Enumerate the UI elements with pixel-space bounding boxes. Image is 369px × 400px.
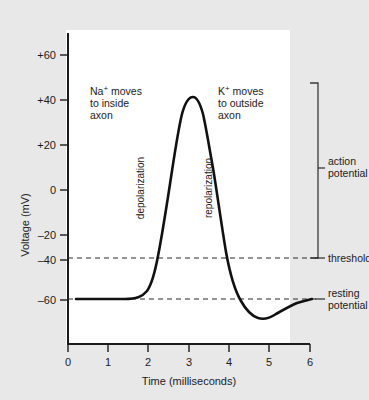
sodium-annotation-line2: to inside bbox=[90, 97, 129, 109]
sodium-annotation-line3: axon bbox=[90, 109, 113, 121]
x-tick-label-4: 4 bbox=[226, 356, 232, 368]
x-tick-label-3: 3 bbox=[186, 356, 192, 368]
resting-potential-label-line1: resting bbox=[328, 287, 360, 299]
repolarization-label: repolarization bbox=[203, 158, 214, 218]
potassium-annotation-line3: axon bbox=[218, 109, 241, 121]
potassium-moves-text: moves bbox=[230, 85, 264, 97]
action-potential-label-line2: potential bbox=[328, 167, 368, 179]
y-tick-label-0: 0 bbox=[50, 184, 56, 196]
y-tick-label-60p: +60 bbox=[37, 49, 56, 61]
action-potential-chart: +60 +40 +20 0 –20 –40 –60 Voltage (mV) 0… bbox=[0, 0, 369, 400]
y-tick-label-20p: +20 bbox=[37, 139, 56, 151]
x-tick-label-1: 1 bbox=[105, 356, 111, 368]
depolarization-label: depolarization bbox=[135, 157, 146, 219]
sodium-symbol: Na bbox=[90, 85, 104, 97]
x-tick-label-0: 0 bbox=[65, 356, 71, 368]
y-axis-title: Voltage (mV) bbox=[19, 193, 31, 257]
resting-potential-label-line2: potential bbox=[328, 299, 368, 311]
potassium-annotation-line2: to outside bbox=[218, 97, 264, 109]
sodium-annotation-line1: Na+ moves bbox=[90, 84, 142, 97]
y-tick-label-60n: –60 bbox=[38, 294, 56, 306]
y-tick-label-40n: –40 bbox=[38, 254, 56, 266]
action-potential-figure: +60 +40 +20 0 –20 –40 –60 Voltage (mV) 0… bbox=[0, 0, 369, 400]
membrane-potential-curve bbox=[76, 97, 312, 319]
sodium-moves-text: moves bbox=[108, 85, 142, 97]
x-tick-label-5: 5 bbox=[266, 356, 272, 368]
threshold-label: threshold bbox=[328, 252, 369, 264]
y-tick-label-20n: –20 bbox=[38, 229, 56, 241]
action-potential-label-line1: action bbox=[328, 155, 356, 167]
x-axis-title: Time (milliseconds) bbox=[142, 375, 236, 387]
action-potential-bracket bbox=[310, 83, 318, 258]
potassium-annotation-line1: K+ moves bbox=[218, 84, 264, 97]
potassium-symbol: K bbox=[218, 85, 225, 97]
y-tick-label-40p: +40 bbox=[37, 94, 56, 106]
x-tick-label-2: 2 bbox=[145, 356, 151, 368]
x-tick-label-6: 6 bbox=[307, 356, 313, 368]
